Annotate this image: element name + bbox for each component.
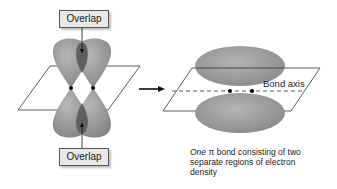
transform-arrow: [139, 86, 165, 92]
bond-axis-label: Bond axis: [263, 78, 305, 89]
lower-electron-region: [195, 93, 285, 133]
overlap-label-bottom: Overlap: [59, 148, 109, 166]
caption-italic: One: [190, 147, 206, 157]
nucleus-left: [69, 86, 73, 90]
nucleus-right: [91, 86, 95, 90]
pi-bond-caption: One π bond consisting of two separate re…: [190, 147, 310, 177]
overlap-label-top: Overlap: [59, 10, 109, 28]
left-p-orbitals: [18, 27, 140, 150]
right-pi-bond: [163, 46, 320, 133]
nucleus-a: [228, 89, 232, 93]
caption-text: bond consisting of two separate regions …: [190, 147, 301, 177]
nucleus-b: [250, 89, 254, 93]
